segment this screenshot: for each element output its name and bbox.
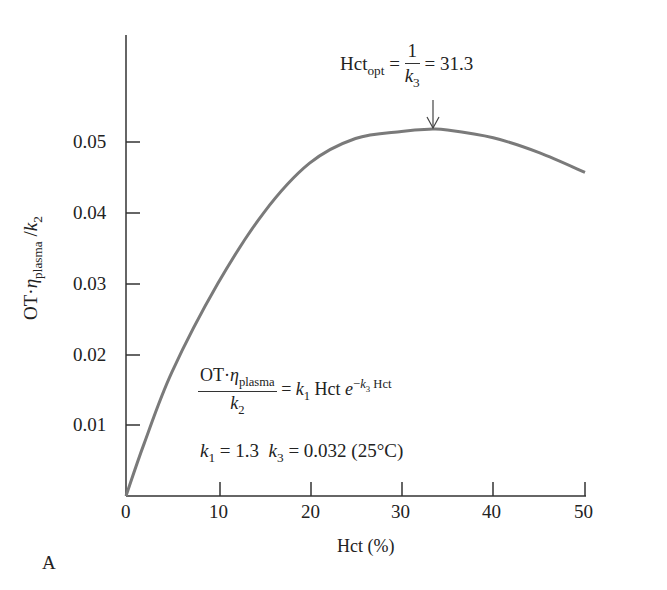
y-axis-label: OT·ηplasma /k2 bbox=[20, 216, 46, 320]
eq-exponent: −k3 Hct bbox=[353, 377, 391, 391]
param-k1-sub: 1 bbox=[208, 450, 215, 465]
x-axis-label: Hct (%) bbox=[337, 536, 394, 557]
eq-num-eta: η bbox=[230, 365, 239, 385]
x-tick-0: 0 bbox=[121, 501, 131, 523]
y-tick-0.04: 0.04 bbox=[73, 202, 106, 224]
eq-e: e bbox=[345, 379, 353, 399]
y-label-k-sub: 2 bbox=[30, 216, 45, 223]
x-tick-30: 30 bbox=[391, 501, 410, 523]
opt-den-k: k bbox=[405, 65, 413, 86]
y-axis bbox=[126, 35, 140, 496]
eq-den-k: k bbox=[230, 393, 238, 413]
eq-equals: = bbox=[281, 379, 291, 399]
y-label-ot: OT bbox=[20, 295, 41, 320]
eq-exp-sub: 3 bbox=[366, 384, 370, 394]
param-k3: k bbox=[269, 440, 277, 461]
param-k1-val: = 1.3 bbox=[220, 440, 259, 461]
eq-num-eta-sub: plasma bbox=[239, 375, 275, 389]
y-label-k: k bbox=[20, 223, 41, 231]
eq-num-ot: OT bbox=[200, 365, 224, 385]
param-k3-val: = 0.032 (25°C) bbox=[288, 440, 403, 461]
eq-num: OT·ηplasma bbox=[198, 365, 277, 392]
equation-annotation: OT·ηplasma k2 = k1 Hct e−k3 Hct bbox=[198, 365, 392, 417]
x-tick-50: 50 bbox=[574, 501, 593, 523]
x-tick-40: 40 bbox=[482, 501, 501, 523]
x-axis-label-main: Hct bbox=[337, 536, 363, 556]
y-tick-0.05: 0.05 bbox=[73, 131, 106, 153]
eq-hct: Hct bbox=[315, 379, 341, 399]
opt-num: 1 bbox=[405, 40, 420, 64]
y-tick-0.02: 0.02 bbox=[73, 344, 106, 366]
opt-val: = 31.3 bbox=[425, 53, 474, 74]
opt-fraction: 1 k3 bbox=[405, 40, 420, 91]
opt-eq: = bbox=[389, 53, 400, 74]
eq-fraction: OT·ηplasma k2 bbox=[198, 365, 277, 417]
x-tick-20: 20 bbox=[301, 501, 320, 523]
param-k3-sub: 3 bbox=[277, 450, 284, 465]
eq-k1-sub: 1 bbox=[304, 389, 310, 403]
y-tick-0.03: 0.03 bbox=[73, 273, 106, 295]
eq-exp-hct: Hct bbox=[373, 377, 391, 391]
opt-den-sub: 3 bbox=[413, 75, 420, 90]
y-label-eta-sub: plasma bbox=[30, 241, 45, 279]
opt-den: k3 bbox=[405, 64, 420, 91]
chart-canvas bbox=[0, 0, 667, 590]
optimum-annotation: Hctopt = 1 k3 = 31.3 bbox=[340, 40, 473, 91]
x-tick-10: 10 bbox=[209, 501, 228, 523]
parameters-annotation: k1 = 1.3 k3 = 0.032 (25°C) bbox=[200, 440, 403, 466]
eq-den: k2 bbox=[198, 392, 277, 418]
eq-k1: k bbox=[296, 379, 304, 399]
y-label-eta: η bbox=[20, 279, 41, 288]
panel-label: A bbox=[42, 552, 56, 574]
opt-sub: opt bbox=[367, 63, 384, 78]
optimum-arrow bbox=[427, 100, 439, 128]
y-label-slash: / bbox=[20, 231, 41, 241]
y-tick-0.01: 0.01 bbox=[73, 414, 106, 436]
x-axis bbox=[126, 482, 586, 496]
opt-hct: Hct bbox=[340, 53, 367, 74]
eq-den-sub: 2 bbox=[238, 402, 244, 416]
y-label-dot: · bbox=[20, 288, 41, 294]
x-axis-label-unit: (%) bbox=[368, 536, 395, 556]
